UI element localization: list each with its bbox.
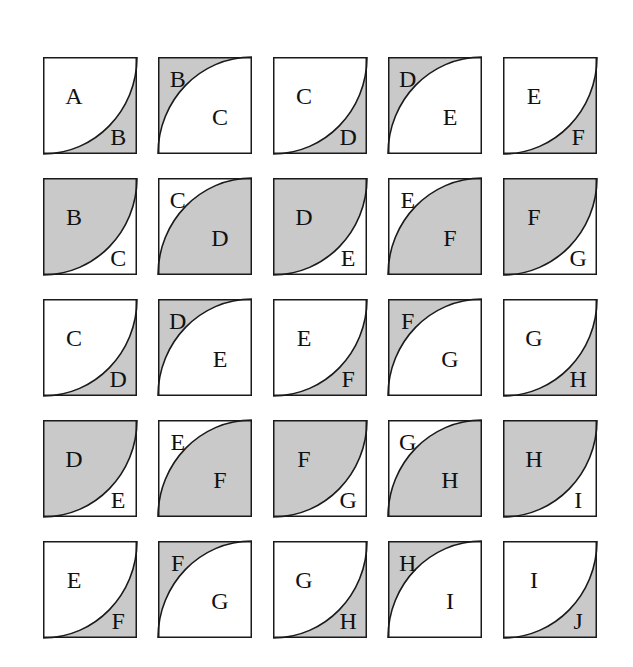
tile-label-a: F — [527, 205, 540, 229]
tile-label-b: F — [572, 125, 585, 149]
tile-label-a: G — [525, 326, 542, 350]
tile-grid: AB BC CD DE — [0, 0, 633, 667]
tile-label-b: H — [441, 468, 458, 492]
tile-label-b: F — [443, 226, 456, 250]
tile: DE — [388, 57, 482, 154]
tile-label-a: D — [169, 309, 186, 333]
tile-label-b: D — [211, 226, 228, 250]
tile-label-a: G — [399, 430, 416, 454]
tile: AB — [43, 57, 137, 154]
tile-label-b: E — [443, 105, 458, 129]
tile: FG — [388, 299, 482, 396]
tile: GH — [388, 420, 482, 517]
tile-label-b: H — [340, 609, 357, 633]
tile-label-a: F — [401, 309, 414, 333]
tile-shape — [503, 541, 597, 638]
tile: HI — [388, 541, 482, 638]
tile-label-b: E — [213, 347, 228, 371]
tile: CD — [158, 178, 252, 275]
tile-label-b: G — [340, 488, 357, 512]
tile-label-b: F — [213, 468, 226, 492]
tile-label-a: F — [297, 447, 310, 471]
tile-label-a: G — [295, 568, 312, 592]
tile-label-b: G — [211, 589, 228, 613]
tile: EF — [273, 299, 367, 396]
tile-label-a: B — [66, 205, 82, 229]
tile-label-a: F — [171, 551, 184, 575]
tile: CD — [43, 299, 137, 396]
tile-label-a: D — [295, 205, 312, 229]
tile-label-a: I — [530, 568, 538, 592]
tile-label-a: A — [65, 84, 82, 108]
tile-label-b: B — [110, 125, 126, 149]
tile: DE — [43, 420, 137, 517]
tile-label-b: F — [342, 367, 355, 391]
tile-shape — [503, 420, 597, 517]
tile-label-a: B — [170, 67, 186, 91]
tile: IJ — [503, 541, 597, 638]
tile-label-a: C — [296, 84, 312, 108]
tile-label-b: J — [574, 609, 583, 633]
tile: FG — [273, 420, 367, 517]
tile: FG — [158, 541, 252, 638]
tile-label-a: E — [527, 84, 542, 108]
tile-label-b: G — [441, 347, 458, 371]
tile-label-b: I — [446, 589, 454, 613]
tile-label-b: C — [212, 105, 228, 129]
tile: FG — [503, 178, 597, 275]
tile-label-b: E — [111, 488, 126, 512]
tile-label-a: C — [170, 188, 186, 212]
tile: CD — [273, 57, 367, 154]
tile-label-a: E — [170, 430, 185, 454]
tile-label-b: F — [112, 609, 125, 633]
tile-label-a: D — [399, 67, 416, 91]
tile-label-a: H — [525, 447, 542, 471]
tile: EF — [503, 57, 597, 154]
tile-label-a: C — [66, 326, 82, 350]
tile-label-b: E — [341, 246, 356, 270]
tile-label-a: E — [67, 568, 82, 592]
tile: EF — [43, 541, 137, 638]
tile-label-a: E — [297, 326, 312, 350]
tile: HI — [503, 420, 597, 517]
tile: EF — [388, 178, 482, 275]
tile: GH — [503, 299, 597, 396]
tile-label-b: H — [570, 367, 587, 391]
tile: GH — [273, 541, 367, 638]
tile-label-a: D — [65, 447, 82, 471]
tile: BC — [158, 57, 252, 154]
tile-label-b: C — [110, 246, 126, 270]
tile: DE — [273, 178, 367, 275]
tile-label-a: H — [399, 551, 416, 575]
tile-label-a: E — [400, 188, 415, 212]
tile-label-b: D — [110, 367, 127, 391]
tile-label-b: D — [340, 125, 357, 149]
tile: DE — [158, 299, 252, 396]
tile: BC — [43, 178, 137, 275]
tile-label-b: G — [570, 246, 587, 270]
tile-label-b: I — [574, 488, 582, 512]
tile: EF — [158, 420, 252, 517]
